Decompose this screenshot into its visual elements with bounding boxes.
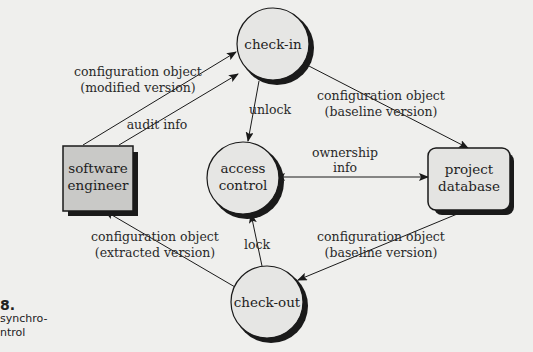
edge-extracted-label-1: configuration object (91, 229, 219, 244)
node-check-out: check-out (231, 266, 308, 343)
node-project-database-label-1: project (445, 161, 494, 177)
figure-caption: 8. synchro- ntrol (0, 298, 47, 340)
edge-audit-label: audit info (127, 117, 188, 132)
node-access-control-label-2: control (219, 177, 268, 193)
node-software-engineer-label-1: software (68, 160, 128, 176)
node-access-control-label-1: access (220, 160, 265, 176)
node-check-out-label: check-out (234, 294, 301, 310)
edge-extracted-label-2: (extracted version) (95, 245, 215, 260)
node-project-database-label-2: database (438, 178, 500, 194)
edge-baseline-out-label-2: (baseline version) (325, 245, 438, 260)
edge-ownership-label-2: info (333, 160, 357, 175)
figure-caption-line-2: ntrol (0, 326, 47, 340)
node-software-engineer: software engineer (63, 146, 138, 216)
node-access-control: access control (207, 142, 284, 219)
figure-caption-line-1: synchro- (0, 312, 47, 326)
node-project-database: project database (428, 148, 514, 215)
edge-baseline-in-label-1: configuration object (317, 88, 445, 103)
node-software-engineer-label-2: engineer (68, 177, 129, 193)
edge-unlock-label: unlock (249, 102, 292, 117)
diagram-svg: check-in access control check-out softwa… (0, 0, 533, 352)
edge-baseline-in-label-2: (baseline version) (325, 104, 438, 119)
diagram-canvas: check-in access control check-out softwa… (0, 0, 533, 352)
node-check-in: check-in (237, 8, 314, 85)
figure-number: 8. (0, 298, 47, 312)
edge-baseline-out-label-1: configuration object (317, 229, 445, 244)
edge-ownership-label-1: ownership (312, 145, 378, 160)
edge-modified-label-1: configuration object (74, 64, 202, 79)
edge-modified-label-2: (modified version) (80, 80, 195, 95)
node-check-in-label: check-in (244, 36, 302, 52)
edge-lock-label: lock (244, 237, 271, 252)
